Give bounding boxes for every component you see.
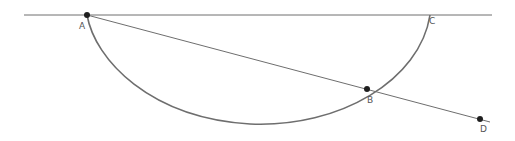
geometry-diagram: A B C D [0,0,515,141]
label-a: A [79,21,86,31]
arc-a-to-c [87,15,430,124]
label-b: B [367,95,373,105]
point-a [84,12,90,18]
point-b [364,86,370,92]
secant-line-abd [87,15,490,122]
point-d [477,116,483,122]
label-c: C [429,16,435,26]
label-d: D [480,124,487,134]
